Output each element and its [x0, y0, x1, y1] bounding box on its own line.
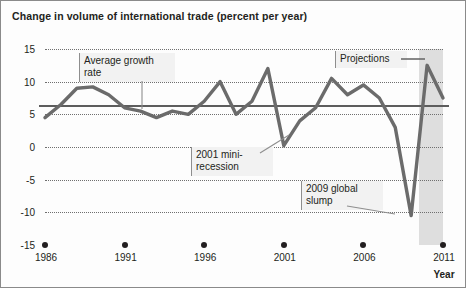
leader-projections	[1, 1, 466, 288]
chart-figure: Change in volume of international trade …	[0, 0, 466, 288]
